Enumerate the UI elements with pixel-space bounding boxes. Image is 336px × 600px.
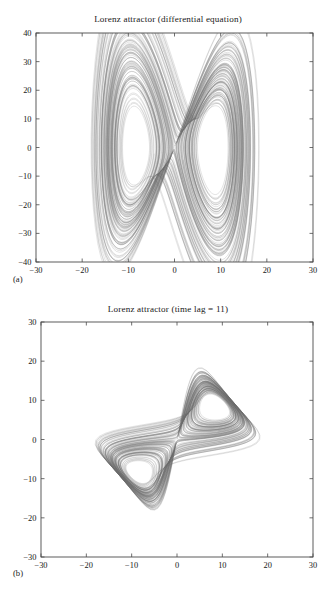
y-tick-label: 10 [23, 115, 31, 124]
y-tick-label: −30 [23, 553, 36, 562]
x-tick-label: −20 [80, 561, 93, 570]
plot-area-a: −30−20−100102030−40−30−20−10010203040 [0, 0, 336, 300]
x-tick-label: −30 [34, 561, 47, 570]
figure-panel-a: Lorenz attractor (differential equation)… [0, 0, 336, 300]
x-tick-label: 10 [218, 561, 226, 570]
axis-frame [41, 322, 313, 557]
panel-label-a: (a) [13, 274, 23, 284]
x-tick-label: 30 [309, 561, 317, 570]
lorenz-timelag-plot: −30−20−100102030−30−20−100102030 [0, 296, 336, 600]
x-tick-label: 20 [263, 266, 271, 275]
y-tick-label: −20 [18, 201, 31, 210]
y-tick-label: 0 [27, 144, 31, 153]
y-tick-label: −10 [18, 172, 31, 181]
x-tick-label: −20 [76, 266, 89, 275]
figure-panel-b: Lorenz attractor (time lag = 11) −30−20−… [0, 296, 336, 600]
x-tick-label: 10 [216, 266, 224, 275]
attractor-trajectory [91, 0, 259, 300]
y-tick-label: 0 [32, 436, 36, 445]
axis-frame [36, 33, 313, 262]
panel-label-b: (b) [13, 568, 23, 578]
y-tick-label: 10 [28, 396, 36, 405]
plot-area-b: −30−20−100102030−30−20−100102030 [0, 296, 336, 600]
lorenz-differential-plot: −30−20−100102030−40−30−20−10010203040 [0, 0, 336, 300]
y-tick-label: −20 [23, 514, 36, 523]
x-tick-label: 0 [175, 561, 179, 570]
x-tick-label: 20 [263, 561, 271, 570]
y-tick-label: 40 [23, 29, 31, 38]
attractor-trajectory [95, 368, 260, 510]
y-tick-label: 20 [28, 357, 36, 366]
y-tick-label: −40 [18, 258, 31, 267]
x-tick-label: −10 [122, 266, 135, 275]
y-tick-label: 30 [23, 58, 31, 67]
y-tick-label: −30 [18, 229, 31, 238]
y-tick-label: −10 [23, 475, 36, 484]
y-tick-label: 30 [28, 318, 36, 327]
y-tick-label: 20 [23, 86, 31, 95]
x-tick-label: −30 [29, 266, 42, 275]
x-tick-label: 0 [172, 266, 176, 275]
x-tick-label: 30 [309, 266, 317, 275]
x-tick-label: −10 [125, 561, 138, 570]
